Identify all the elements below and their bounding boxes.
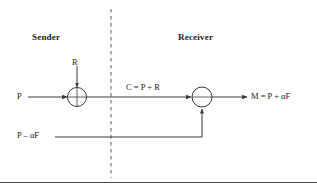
- ciphertext-signal-label: C = P + R: [126, 83, 160, 92]
- output-signal-label: M = P + αF: [251, 92, 290, 101]
- feedback-signal-label: P – αF: [17, 131, 39, 140]
- figure-container: Sender Receiver R P C = P + R M = P + αF…: [0, 0, 317, 188]
- plaintext-signal-label: P: [17, 92, 22, 101]
- receiver-domain-label: Receiver: [178, 33, 213, 42]
- sender-domain-label: Sender: [32, 33, 60, 42]
- feedback-path-arrow: [55, 109, 202, 137]
- noise-signal-label: R: [72, 58, 78, 67]
